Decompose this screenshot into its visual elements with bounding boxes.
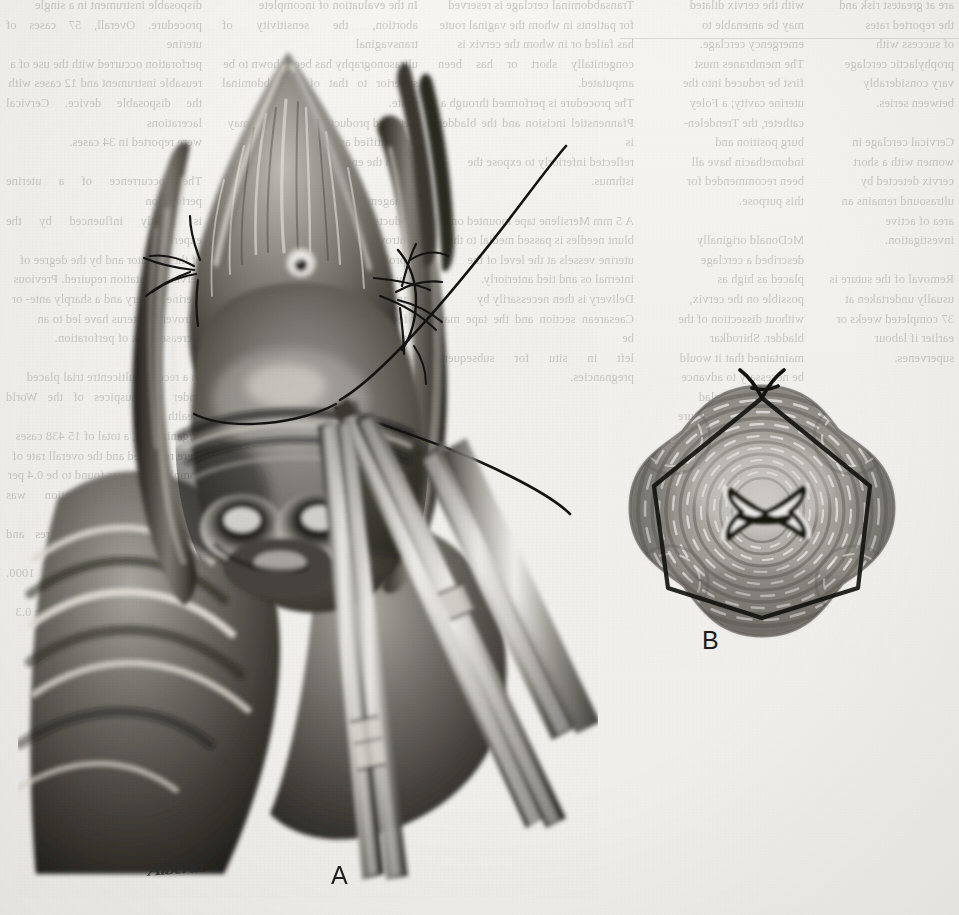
panel-label-b: B xyxy=(702,628,719,653)
showthrough-text-column-5: are at greatest risk and the reported ra… xyxy=(818,0,954,368)
panel-b-illustration xyxy=(612,368,912,668)
scanned-page: disposable instrument in a single proced… xyxy=(0,0,959,915)
showthrough-header-rule xyxy=(620,38,959,39)
panel-a-illustration xyxy=(18,28,598,898)
panel-label-a: A xyxy=(331,863,348,888)
